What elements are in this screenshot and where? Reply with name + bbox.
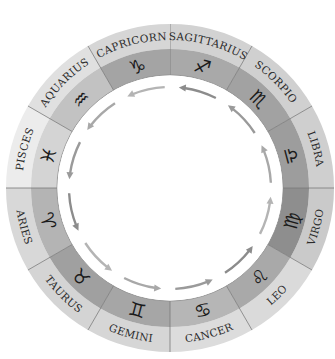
zodiac-wheel: SAGITTARIUS♐SCORPIO♏LIBRA♎VIRGO♍LEO♌CANC… <box>0 0 335 359</box>
inner-circle <box>58 76 283 301</box>
